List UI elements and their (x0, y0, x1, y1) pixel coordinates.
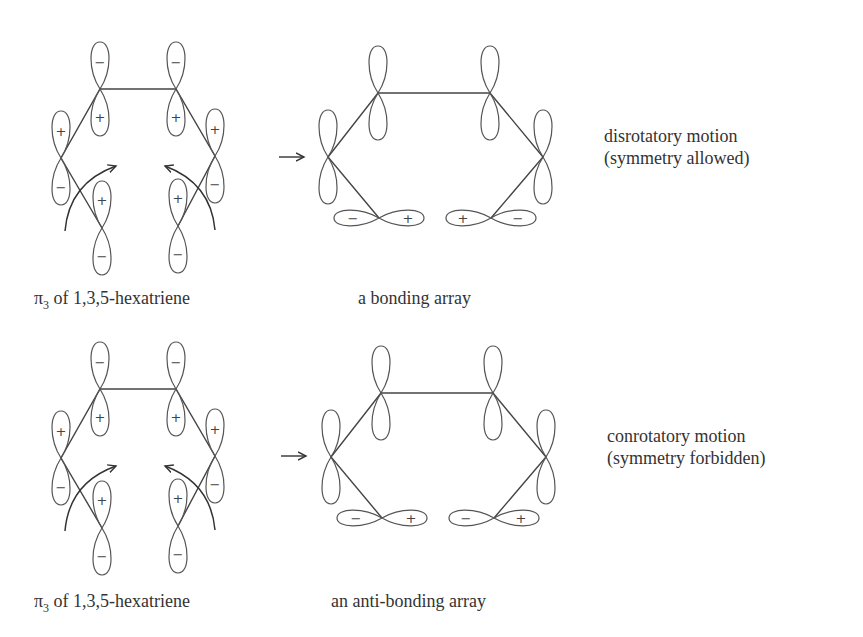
reactant-caption: π3 of 1,3,5-hexatriene (34, 288, 190, 313)
product-bond-chain (331, 393, 546, 518)
p-orbital-c4: + − (169, 179, 187, 273)
row-1-product-bonding-array: − + + − (319, 46, 552, 226)
sign-label: − (513, 211, 524, 226)
symmetry-label: (symmetry allowed) (604, 147, 749, 169)
motion-description: conrotatory motion (symmetry forbidden) (607, 425, 765, 469)
sign-label: + (173, 491, 184, 506)
reactant-caption: π3 of 1,3,5-hexatriene (34, 591, 190, 616)
sign-label: + (95, 110, 106, 125)
sign-label: − (351, 511, 362, 526)
sign-label: + (171, 110, 182, 125)
sign-label: − (95, 55, 106, 70)
sign-label: − (171, 55, 182, 70)
p-orbital-c3: + − (93, 181, 111, 275)
sign-label: − (171, 355, 182, 370)
molecule-name: of 1,3,5-hexatriene (49, 591, 190, 611)
p-orbital-product-c5 (534, 110, 552, 204)
sign-label: + (516, 511, 527, 526)
sign-label: + (406, 511, 417, 526)
terminal-orbital-right: + − (446, 210, 536, 226)
p-orbital-c2: + − (52, 411, 70, 505)
p-orbital-product-c5 (537, 410, 555, 504)
pi-symbol: π (34, 288, 43, 308)
sign-label: − (173, 547, 184, 562)
product-caption: a bonding array (358, 288, 471, 309)
sign-label: − (210, 177, 221, 192)
motion-label: conrotatory motion (607, 425, 765, 447)
row-2-reactant-hexatriene: − + − + + − + − + − (52, 342, 224, 575)
sign-label: − (97, 549, 108, 564)
row-1-reactant-hexatriene: − + − + + − + − + − (52, 42, 224, 275)
sign-label: + (171, 410, 182, 425)
p-orbital-product-c2 (319, 110, 337, 204)
sign-label: − (348, 211, 359, 226)
molecule-name: of 1,3,5-hexatriene (49, 288, 190, 308)
row-2-product-anti-bonding-array: − + − + (322, 346, 555, 526)
sign-label: − (56, 180, 67, 195)
hexatriene-bond-chain (61, 89, 215, 228)
terminal-orbital-left: − + (337, 510, 427, 526)
product-caption: an anti-bonding array (331, 591, 486, 612)
terminal-orbital-left: − + (334, 210, 424, 226)
symmetry-label: (symmetry forbidden) (607, 447, 765, 469)
terminal-orbital-right: − + (449, 510, 539, 526)
sign-label: − (173, 247, 184, 262)
sign-label: + (458, 211, 469, 226)
p-orbital-c3: + − (93, 481, 111, 575)
product-bond-chain (328, 93, 543, 218)
sign-label: + (95, 410, 106, 425)
electrocyclic-orbital-diagram: − + − + + − + − + − (0, 0, 863, 637)
sign-label: − (210, 477, 221, 492)
p-orbital-c5: + − (206, 409, 224, 503)
rotation-arrow-left-icon (65, 166, 116, 231)
sign-label: − (97, 249, 108, 264)
pi-symbol: π (34, 591, 43, 611)
motion-description: disrotatory motion (symmetry allowed) (604, 125, 749, 169)
sign-label: + (97, 193, 108, 208)
sign-label: + (56, 424, 67, 439)
hexatriene-bond-chain (61, 389, 215, 528)
p-orbital-c4: + − (169, 479, 187, 573)
p-orbital-product-c2 (322, 410, 340, 504)
p-orbital-c2: + − (52, 111, 70, 205)
sign-label: + (403, 211, 414, 226)
sign-label: + (56, 124, 67, 139)
sign-label: + (97, 493, 108, 508)
sign-label: − (95, 355, 106, 370)
sign-label: − (56, 480, 67, 495)
sign-label: + (173, 191, 184, 206)
sign-label: + (210, 122, 221, 137)
sign-label: + (210, 422, 221, 437)
sign-label: − (461, 511, 472, 526)
p-orbital-c5: + − (206, 109, 224, 203)
motion-label: disrotatory motion (604, 125, 749, 147)
rotation-arrow-left-icon (65, 466, 116, 531)
